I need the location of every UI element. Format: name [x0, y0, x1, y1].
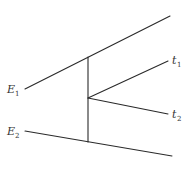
- branching-diagram: E 1 E 2 t 1 t 2: [0, 0, 193, 170]
- label-t1-sub: 1: [177, 61, 181, 69]
- label-e1: E 1: [6, 83, 19, 98]
- label-e2-sub: 2: [15, 132, 19, 140]
- label-t1: t 1: [172, 54, 181, 69]
- t1-branch: [88, 61, 168, 98]
- e2-line: [25, 131, 172, 156]
- label-e1-main: E: [6, 83, 15, 96]
- label-t2-sub: 2: [177, 115, 181, 123]
- label-e1-sub: 1: [15, 90, 19, 98]
- t2-branch: [88, 98, 168, 114]
- label-e2-main: E: [6, 125, 15, 138]
- label-e2: E 2: [6, 125, 19, 140]
- label-t2: t 2: [172, 108, 181, 123]
- e1-line: [25, 16, 170, 89]
